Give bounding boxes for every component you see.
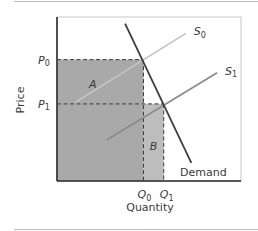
label-area-b: B: [150, 140, 158, 153]
label-q0: Q0: [137, 188, 151, 203]
label-q1: Q1: [160, 188, 174, 203]
y-axis-label: Price: [14, 86, 27, 113]
shaded-areas: [57, 60, 164, 181]
label-s1: S1: [225, 65, 237, 80]
supply-demand-diagram: Price Quantity P0P1Q0Q1S0S1DemandAB: [0, 0, 258, 231]
label-p0: P0: [38, 54, 50, 69]
x-axis-label: Quantity: [126, 201, 174, 214]
area-base: [57, 104, 143, 181]
label-demand: Demand: [180, 166, 227, 179]
label-area-a: A: [88, 78, 97, 91]
area-a: [57, 60, 143, 104]
label-p1: P1: [38, 98, 50, 113]
label-s0: S0: [194, 25, 206, 40]
